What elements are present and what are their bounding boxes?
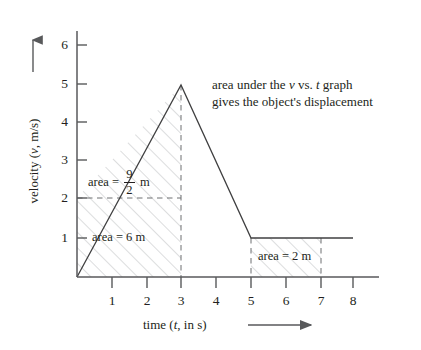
triangle-area-unit: m — [140, 175, 150, 190]
note-text-a: area under the — [212, 77, 289, 92]
fraction-denominator: 2 — [124, 183, 134, 197]
fraction-numerator: 9 — [124, 168, 134, 182]
y-axis-title-suffix: , m/s) — [26, 119, 41, 149]
fraction-nine-halves: 9 2 — [124, 168, 135, 196]
figure-canvas: 6 5 4 3 2 1 1 2 3 4 5 6 7 8 velocity (v,… — [0, 0, 421, 350]
x-axis-title: time (t, in s) — [143, 318, 207, 331]
y-axis-title: velocity (v, m/s) — [24, 96, 42, 226]
y-tick-label-3: 3 — [52, 153, 68, 167]
x-axis-title-prefix: time ( — [143, 317, 174, 332]
y-axis-title-prefix: velocity ( — [26, 154, 41, 203]
y-tick-label-4: 4 — [52, 115, 68, 129]
x-tick-label-8: 8 — [343, 294, 363, 308]
x-axis-title-suffix: , in s) — [177, 317, 206, 332]
x-axis-ticks — [112, 277, 353, 288]
y-tick-label-2: 2 — [52, 191, 68, 205]
x-tick-label-4: 4 — [206, 294, 226, 308]
y-tick-label-5: 5 — [52, 77, 68, 91]
x-tick-label-7: 7 — [311, 294, 331, 308]
y-axis-title-text: velocity (v, m/s) — [26, 119, 41, 204]
displacement-note-line-1: area under the v vs. t graph — [212, 76, 373, 93]
y-axis-title-variable: v — [26, 148, 41, 154]
note-text-b: vs. — [295, 77, 316, 92]
x-tick-label-6: 6 — [276, 294, 296, 308]
triangle-area-label: area = 9 2 m — [88, 168, 150, 196]
right-rectangle-area-label: area = 2 m — [258, 250, 311, 263]
x-tick-label-1: 1 — [102, 294, 122, 308]
y-tick-label-6: 6 — [52, 38, 68, 52]
note-text-c: graph — [320, 77, 353, 92]
x-tick-label-3: 3 — [171, 294, 191, 308]
y-tick-label-1: 1 — [52, 231, 68, 245]
rectangle-area-label: area = 6 m — [92, 231, 145, 244]
x-tick-label-5: 5 — [241, 294, 261, 308]
displacement-note: area under the v vs. t graph gives the o… — [212, 76, 373, 110]
triangle-area-prefix: area = — [88, 175, 119, 190]
x-tick-label-2: 2 — [137, 294, 157, 308]
displacement-note-line-2: gives the object's displacement — [212, 93, 373, 110]
